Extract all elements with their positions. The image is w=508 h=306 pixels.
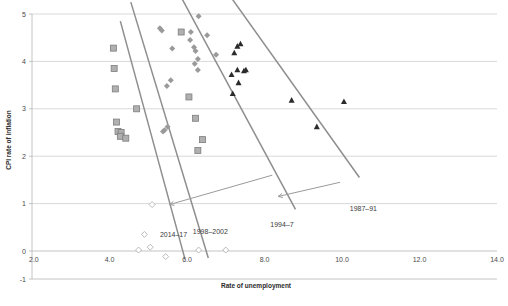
data-point-1994–7 — [168, 77, 174, 83]
data-point-1998–2002 — [111, 66, 117, 72]
data-point-1987–91 — [314, 124, 320, 130]
data-point-1987–91 — [231, 50, 237, 56]
trendline-layer — [120, 0, 359, 259]
data-point-1998–2002 — [186, 94, 192, 100]
x-tick-label: 6.0 — [182, 256, 192, 263]
data-point-1994–7 — [164, 83, 170, 89]
data-point-2014–17 — [163, 254, 169, 260]
series-annotation-1994–7: 1994–7 — [270, 221, 293, 228]
x-tick-label: 8.0 — [260, 256, 270, 263]
grid-layer — [32, 14, 497, 279]
trendline-1987–91 — [228, 0, 360, 178]
scatter-chart: -10123452.04.06.08.010.012.014.0 2014–17… — [0, 0, 508, 306]
x-tick-label: 4.0 — [105, 256, 115, 263]
series-annotation-layer: 2014–171998–20021994–71987–91 — [160, 205, 377, 238]
x-tick-label: 2.0 — [29, 256, 39, 263]
trendline-2014–17 — [120, 21, 185, 259]
leader-line-layer — [170, 175, 341, 205]
series-annotation-1998–2002: 1998–2002 — [193, 228, 228, 235]
data-point-1987–91 — [289, 97, 295, 103]
y-tick-label: 4 — [22, 58, 26, 65]
data-point-2014–17 — [147, 244, 153, 250]
data-point-2014–17 — [149, 202, 155, 208]
data-point-1998–2002 — [134, 106, 140, 112]
data-point-1998–2002 — [178, 29, 184, 35]
data-point-1998–2002 — [193, 115, 199, 121]
x-tick-label: 10.0 — [335, 256, 349, 263]
data-point-1994–7 — [195, 67, 201, 73]
x-tick-label: 12.0 — [413, 256, 427, 263]
data-point-1987–91 — [229, 71, 235, 77]
data-point-1994–7 — [204, 32, 210, 38]
leader-line-0 — [278, 182, 340, 196]
x-axis-title: Rate of unemployment — [221, 282, 292, 290]
data-point-1998–2002 — [110, 45, 116, 51]
y-tick-label: 1 — [22, 200, 26, 207]
data-point-1998–2002 — [200, 137, 206, 143]
y-tick-label: 5 — [22, 11, 26, 18]
data-point-1998–2002 — [112, 86, 118, 92]
y-tick-label: 3 — [22, 105, 26, 112]
y-axis-title: CPI rate of inflation — [5, 110, 12, 170]
data-point-1998–2002 — [123, 135, 129, 141]
data-point-1987–91 — [237, 41, 243, 47]
axis-layer — [29, 14, 32, 279]
series-annotation-1987–91: 1987–91 — [350, 205, 377, 212]
data-point-2014–17 — [136, 247, 142, 253]
series-annotation-2014–17: 2014–17 — [160, 231, 187, 238]
trendline-1998–2002 — [131, 2, 209, 258]
data-point-1987–91 — [234, 67, 240, 73]
chart-container: -10123452.04.06.08.010.012.014.0 2014–17… — [0, 0, 508, 306]
data-point-1987–91 — [230, 90, 236, 96]
data-point-2014–17 — [196, 247, 202, 253]
x-tick-label: 14.0 — [490, 256, 504, 263]
data-point-1994–7 — [187, 37, 193, 43]
data-point-1998–2002 — [113, 119, 119, 125]
trendline-1994–7 — [180, 0, 295, 209]
y-tick-label: -1 — [20, 276, 26, 283]
y-tick-label: 0 — [22, 248, 26, 255]
y-tick-label: 2 — [22, 153, 26, 160]
data-point-1994–7 — [188, 29, 194, 35]
data-point-1987–91 — [341, 98, 347, 104]
data-point-2014–17 — [223, 247, 229, 253]
data-point-2014–17 — [141, 231, 147, 237]
data-point-1994–7 — [169, 46, 175, 52]
data-point-1998–2002 — [195, 148, 201, 154]
data-point-1987–91 — [236, 80, 242, 86]
